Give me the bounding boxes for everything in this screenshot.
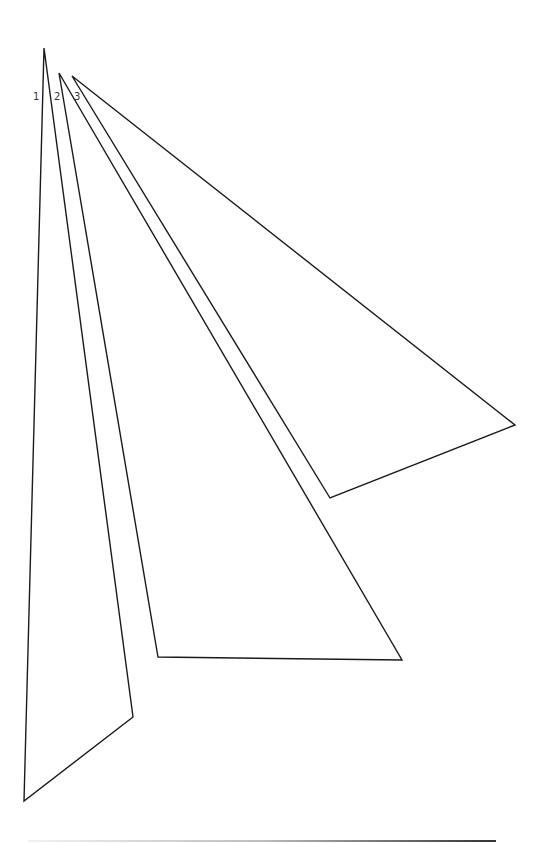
bottom-divider-line <box>28 840 496 842</box>
triangle-label-1: 1 <box>33 91 39 102</box>
triangle-1 <box>24 48 133 801</box>
diagram-canvas: 123 <box>0 0 546 843</box>
triangle-3 <box>72 76 515 498</box>
triangle-label-3: 3 <box>74 91 80 102</box>
triangle-2 <box>59 73 402 660</box>
triangle-label-2: 2 <box>54 91 60 102</box>
